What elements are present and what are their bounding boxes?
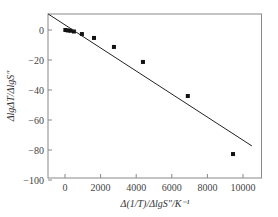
fit-line xyxy=(48,14,252,146)
x-tick-label: 0 xyxy=(63,182,68,193)
scatter-chart: 0−20−40−60−80−100 0200040006000800010000… xyxy=(0,0,278,217)
x-axis-title: Δ(1/T)/ΔlgS″/K⁻¹ xyxy=(120,198,190,210)
data-point xyxy=(92,36,96,40)
data-point xyxy=(141,60,145,64)
y-axis-title: ΔlgΔT/ΔlgS″ xyxy=(5,70,16,123)
x-tick-label: 6000 xyxy=(162,182,182,193)
x-tick-label: 2000 xyxy=(91,182,111,193)
x-tick-label: 4000 xyxy=(126,182,146,193)
y-tick-label: −20 xyxy=(28,55,44,66)
plot-frame xyxy=(48,14,262,178)
y-tick-label: −80 xyxy=(28,145,44,156)
data-point xyxy=(186,94,190,98)
y-tick-label: 0 xyxy=(39,25,44,36)
x-tick-label: 10000 xyxy=(231,182,256,193)
x-tick-label: 8000 xyxy=(197,182,217,193)
data-series xyxy=(48,14,252,156)
y-tick-label: −60 xyxy=(28,115,44,126)
x-axis-ticks: 0200040006000800010000 xyxy=(63,174,256,193)
data-point xyxy=(231,152,235,156)
y-tick-label: −40 xyxy=(28,85,44,96)
data-point xyxy=(112,45,116,49)
y-tick-label: −100 xyxy=(23,175,44,186)
